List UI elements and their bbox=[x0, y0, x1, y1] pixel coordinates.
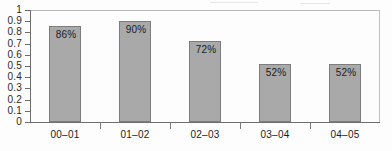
y-axis-tick bbox=[25, 77, 30, 78]
y-axis-tick-label: 0.9 bbox=[0, 16, 22, 26]
y-axis-tick-label: 0.3 bbox=[0, 83, 22, 93]
x-axis-category-label: 00–01 bbox=[30, 130, 100, 140]
scan-artifact bbox=[300, 3, 330, 4]
bar: 86% bbox=[49, 26, 81, 122]
scan-artifact bbox=[210, 2, 258, 3]
y-axis-line bbox=[30, 10, 31, 123]
y-axis-tick-label: 0.4 bbox=[0, 72, 22, 82]
bar-value-label: 90% bbox=[120, 25, 152, 35]
y-axis-tick bbox=[25, 10, 30, 11]
x-axis-tick bbox=[170, 123, 171, 129]
y-axis-tick bbox=[25, 44, 30, 45]
y-axis-tick bbox=[25, 21, 30, 22]
x-axis-line bbox=[30, 122, 380, 123]
y-axis-tick-label: 0.7 bbox=[0, 39, 22, 49]
x-axis-category-label: 03–04 bbox=[240, 130, 310, 140]
y-axis-tick bbox=[25, 55, 30, 56]
y-axis-tick bbox=[25, 122, 30, 123]
y-axis-tick bbox=[25, 111, 30, 112]
plot-frame-top bbox=[30, 10, 380, 11]
bar-chart-screenshot: 10.90.80.70.60.50.40.30.20.10 86%90%72%5… bbox=[0, 0, 392, 151]
bar: 90% bbox=[119, 21, 151, 122]
y-axis-tick-label: 0.5 bbox=[0, 61, 22, 71]
x-axis-tick bbox=[310, 123, 311, 129]
bar-value-label: 52% bbox=[260, 68, 292, 78]
y-axis-tick bbox=[25, 32, 30, 33]
plot-frame-right bbox=[379, 10, 380, 123]
bar: 72% bbox=[189, 41, 221, 122]
y-axis-tick-label: 0.6 bbox=[0, 50, 22, 60]
bar: 52% bbox=[329, 64, 361, 122]
y-axis-tick bbox=[25, 100, 30, 101]
y-axis-tick-label: 0 bbox=[0, 117, 22, 127]
bar-value-label: 52% bbox=[330, 68, 362, 78]
bar: 52% bbox=[259, 64, 291, 122]
y-axis-tick-label: 1 bbox=[0, 5, 22, 15]
y-axis-tick-label: 0.1 bbox=[0, 106, 22, 116]
x-axis-tick bbox=[240, 123, 241, 129]
x-axis-category-label: 01–02 bbox=[100, 130, 170, 140]
y-axis-tick bbox=[25, 66, 30, 67]
y-axis-tick bbox=[25, 88, 30, 89]
bar-value-label: 72% bbox=[190, 45, 222, 55]
y-axis-tick-label: 0.2 bbox=[0, 95, 22, 105]
x-axis-tick bbox=[100, 123, 101, 129]
bar-value-label: 86% bbox=[50, 30, 82, 40]
x-axis-category-label: 04–05 bbox=[310, 130, 380, 140]
x-axis-category-label: 02–03 bbox=[170, 130, 240, 140]
y-axis-tick-label: 0.8 bbox=[0, 27, 22, 37]
